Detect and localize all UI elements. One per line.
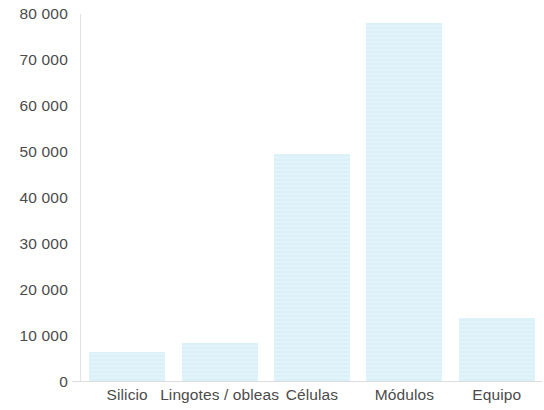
bar-texture bbox=[366, 23, 442, 382]
bar-texture bbox=[89, 352, 165, 382]
x-axis-category-label: Módulos bbox=[375, 386, 434, 404]
bar-chart: 010 00020 00030 00040 00050 00060 00070 … bbox=[0, 0, 544, 410]
y-axis-tick-label: 30 000 bbox=[19, 236, 68, 252]
bar bbox=[366, 23, 442, 382]
x-axis-category-label: Silicio bbox=[107, 386, 148, 404]
y-axis-tick-label: 50 000 bbox=[19, 144, 68, 160]
x-axis-category-label: Lingotes / obleas bbox=[160, 386, 279, 404]
x-axis: SilicioLingotes / obleasCélulasMódulosEq… bbox=[0, 386, 544, 410]
bar bbox=[274, 154, 350, 382]
x-axis-line bbox=[72, 381, 542, 382]
bar bbox=[182, 343, 258, 382]
x-axis-category-label: Células bbox=[286, 386, 338, 404]
y-axis-tick-label: 20 000 bbox=[19, 282, 68, 298]
x-axis-category-label: Equipo bbox=[472, 386, 521, 404]
y-axis: 010 00020 00030 00040 00050 00060 00070 … bbox=[0, 0, 74, 410]
plot-area bbox=[81, 14, 543, 382]
bar-texture bbox=[274, 154, 350, 382]
bar bbox=[459, 318, 535, 382]
y-axis-tick-label: 70 000 bbox=[19, 52, 68, 68]
bar-texture bbox=[182, 343, 258, 382]
y-axis-tick-label: 60 000 bbox=[19, 98, 68, 114]
y-axis-tick-label: 80 000 bbox=[19, 6, 68, 22]
bar-texture bbox=[459, 318, 535, 382]
y-axis-tick-label: 40 000 bbox=[19, 190, 68, 206]
y-axis-tick-label: 10 000 bbox=[19, 328, 68, 344]
bar bbox=[89, 352, 165, 382]
